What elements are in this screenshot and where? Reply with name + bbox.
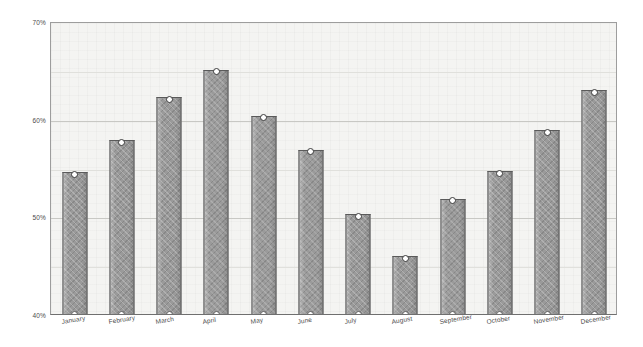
x-axis-tick-label: January [61,314,86,325]
x-axis-tick-label: March [155,315,174,325]
data-point-marker[interactable] [355,213,362,220]
x-axis-tick-label: June [297,316,312,325]
bar[interactable] [109,140,134,314]
data-point-marker[interactable] [71,171,78,178]
x-axis-tick: September [439,318,472,325]
bar-group[interactable] [335,23,382,314]
x-axis-tick: October [486,318,510,325]
bar-group[interactable] [98,23,145,314]
bar[interactable] [204,70,229,314]
x-axis-tick: February [108,318,135,325]
x-axis-tick: July [344,318,356,325]
data-point-marker[interactable] [544,129,551,136]
x-axis-tick: August [391,318,412,325]
x-axis-tick-label: October [486,314,511,325]
bar[interactable] [298,150,323,314]
x-axis: JanuaryFebruaryMarchAprilMayJuneJulyAugu… [50,318,617,347]
bars-layer [51,23,616,314]
x-axis-tick: December [580,318,611,325]
baseline-marker [355,311,362,316]
bar[interactable] [487,171,512,314]
bar[interactable] [346,214,371,314]
bar-group[interactable] [146,23,193,314]
x-axis-tick: January [61,318,85,325]
y-axis-tick-label: 70% [32,19,46,26]
bar[interactable] [157,97,182,314]
plot-area [50,22,617,315]
bar[interactable] [440,199,465,314]
x-axis-tick-label: April [202,316,216,325]
bar-group[interactable] [287,23,334,314]
baseline-marker [260,311,267,316]
bar[interactable] [535,130,560,314]
x-axis-tick-label: August [391,315,413,325]
bar-group[interactable] [476,23,523,314]
bar[interactable] [251,116,276,314]
bar-group[interactable] [240,23,287,314]
bar-group[interactable] [524,23,571,314]
y-axis: 40%50%60%70% [0,0,46,347]
data-point-marker[interactable] [118,139,125,146]
x-axis-tick: May [250,318,263,325]
bar-group[interactable] [571,23,617,314]
x-axis-tick: June [297,318,312,325]
x-axis-tick: March [155,318,174,325]
bar[interactable] [62,172,87,314]
x-axis-tick-label: February [108,314,136,325]
data-point-marker[interactable] [166,96,173,103]
x-axis-tick-label: July [344,316,357,325]
x-axis-tick: April [202,318,216,325]
bar-chart: 40%50%60%70% JanuaryFebruaryMarchAprilMa… [0,0,643,347]
bar[interactable] [582,90,607,314]
y-axis-tick-label: 60% [32,116,46,123]
y-axis-tick-label: 40% [32,312,46,319]
x-axis-tick: November [533,318,564,325]
bar-group[interactable] [429,23,476,314]
bar[interactable] [393,256,418,314]
bar-group[interactable] [382,23,429,314]
data-point-marker[interactable] [591,89,598,96]
bar-group[interactable] [51,23,98,314]
baseline-marker [213,311,220,316]
bar-group[interactable] [193,23,240,314]
data-point-marker[interactable] [402,255,409,262]
x-axis-tick-label: May [250,316,264,325]
y-axis-tick-label: 50% [32,214,46,221]
